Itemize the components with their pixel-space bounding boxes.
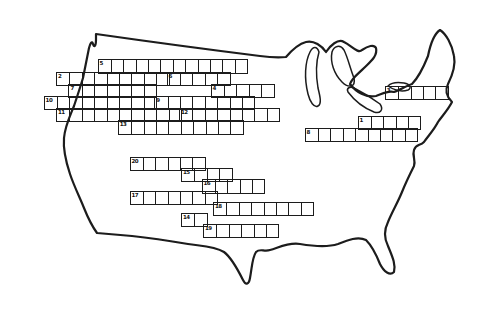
crossword-cell[interactable]: 11 [57, 109, 69, 121]
crossword-cell[interactable] [239, 203, 251, 215]
crossword-cell[interactable]: 20 [131, 158, 143, 170]
crossword-cell[interactable] [155, 192, 167, 204]
crossword-cell[interactable]: 15 [182, 169, 194, 181]
crossword-cell[interactable] [241, 225, 253, 237]
crossword-cell[interactable] [264, 203, 276, 215]
clue-number: 14 [183, 214, 190, 220]
crossword-cell[interactable] [206, 121, 218, 133]
crossword-word-18: 18 [213, 202, 314, 216]
crossword-cell[interactable]: 18 [214, 203, 226, 215]
crossword-cell[interactable] [144, 121, 156, 133]
crossword-cell[interactable] [226, 203, 238, 215]
crossword-cell[interactable]: 8 [306, 129, 318, 141]
clue-number: 8 [307, 129, 310, 135]
clue-number: 17 [132, 192, 139, 198]
crossword-cell[interactable] [168, 192, 180, 204]
crossword-cell[interactable] [380, 129, 392, 141]
clue-number: 5 [100, 60, 103, 66]
crossword-cell[interactable] [168, 121, 180, 133]
crossword-cell[interactable] [180, 73, 192, 85]
crossword-cell[interactable] [368, 129, 380, 141]
crossword-cell[interactable] [251, 203, 263, 215]
crossword-cell[interactable] [192, 192, 204, 204]
crossword-cell[interactable] [94, 109, 106, 121]
crossword-cell[interactable] [318, 129, 330, 141]
crossword-word-3: 3 [385, 86, 449, 100]
clue-number: 19 [205, 225, 212, 231]
crossword-cell[interactable] [156, 121, 168, 133]
crossword-cell[interactable] [235, 60, 247, 72]
clue-number: 9 [156, 97, 159, 103]
crossword-cell[interactable] [227, 180, 239, 192]
clue-number: 13 [120, 121, 127, 127]
crossword-cell[interactable] [181, 121, 193, 133]
clue-number: 4 [213, 85, 216, 91]
crossword-cell[interactable] [254, 109, 266, 121]
crossword-cell[interactable] [301, 203, 313, 215]
crossword-cell[interactable] [168, 158, 180, 170]
crossword-cell[interactable] [343, 129, 355, 141]
crossword-cell[interactable] [180, 192, 192, 204]
clue-number: 20 [132, 158, 139, 164]
crossword-cell[interactable] [288, 203, 300, 215]
crossword-word-13: 13 [118, 120, 244, 134]
clue-number: 15 [183, 169, 190, 175]
crossword-cell[interactable] [261, 85, 273, 97]
crossword-cell[interactable] [330, 129, 342, 141]
crossword-cell[interactable] [143, 158, 155, 170]
crossword-cell[interactable] [355, 129, 367, 141]
crossword-cell[interactable] [266, 225, 278, 237]
crossword-cell[interactable]: 19 [204, 225, 216, 237]
crossword-cell[interactable] [143, 192, 155, 204]
crossword-cell[interactable] [254, 225, 266, 237]
crossword-cell[interactable]: 17 [131, 192, 143, 204]
crossword-cell[interactable] [69, 109, 81, 121]
crossword-word-17: 17 [130, 191, 219, 205]
crossword-cell[interactable] [405, 129, 417, 141]
clue-number: 16 [204, 180, 211, 186]
crossword-cell[interactable] [435, 87, 447, 99]
clue-number: 2 [58, 73, 61, 79]
crossword-cell[interactable] [267, 109, 279, 121]
clue-number: 18 [215, 203, 222, 209]
clue-number: 11 [58, 109, 65, 115]
crossword-cell[interactable]: 3 [386, 87, 398, 99]
crossword-cell[interactable] [155, 158, 167, 170]
crossword-cell[interactable] [423, 87, 435, 99]
crossword-map-worksheet: 5267410911121331820151617181419 [0, 0, 485, 309]
crossword-cell[interactable] [252, 180, 264, 192]
crossword-cell[interactable] [131, 121, 143, 133]
crossword-cell[interactable] [192, 73, 204, 85]
crossword-cell[interactable] [216, 225, 228, 237]
crossword-cell[interactable] [240, 180, 252, 192]
clue-number: 10 [46, 97, 53, 103]
clue-number: 7 [70, 85, 73, 91]
crossword-grid-layer: 5267410911121331820151617181419 [0, 0, 485, 309]
clue-number: 6 [169, 73, 172, 79]
crossword-cell[interactable] [229, 225, 241, 237]
crossword-cell[interactable] [411, 87, 423, 99]
crossword-cell[interactable] [193, 121, 205, 133]
crossword-word-8: 8 [305, 128, 419, 142]
crossword-cell[interactable] [230, 121, 242, 133]
crossword-cell[interactable] [276, 203, 288, 215]
crossword-cell[interactable] [82, 109, 94, 121]
crossword-cell[interactable] [242, 109, 254, 121]
crossword-cell[interactable]: 14 [182, 214, 194, 226]
crossword-cell[interactable]: 13 [119, 121, 131, 133]
crossword-cell[interactable]: 6 [168, 73, 180, 85]
crossword-word-19: 19 [203, 224, 279, 238]
clue-number: 1 [360, 117, 363, 123]
crossword-cell[interactable] [392, 129, 404, 141]
crossword-cell[interactable] [398, 87, 410, 99]
clue-number: 12 [181, 109, 188, 115]
crossword-cell[interactable] [218, 121, 230, 133]
clue-number: 3 [387, 87, 390, 93]
